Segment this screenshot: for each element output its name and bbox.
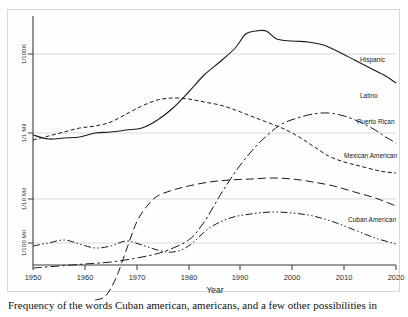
series-label-puerto-rican: Puerto Rican — [357, 118, 395, 125]
series-label-mexican-american: Mexican American — [344, 152, 397, 159]
x-axis — [33, 265, 396, 270]
x-axis-title: Year — [206, 285, 223, 295]
series-paths — [33, 30, 396, 300]
y-axis — [28, 16, 33, 265]
figure-caption: Frequency of the words Cuban american, a… — [8, 299, 404, 312]
y-tick-label-1: 1/1 Mil — [21, 123, 27, 142]
x-tick-label-2: 1970 — [129, 273, 146, 282]
x-tick-label-3: 1980 — [181, 273, 198, 282]
x-tick-label-1: 1960 — [77, 273, 94, 282]
x-tick-label-6: 2010 — [336, 273, 353, 282]
series-line-hispanic — [33, 30, 396, 139]
gridlines — [33, 54, 396, 243]
line-chart: 1/100K 1/1 Mil 1/10 Mil 1/100 Mil 1950 1… — [0, 0, 408, 317]
x-tick-label-4: 1990 — [232, 273, 249, 282]
y-tick-label-0: 1/100K — [21, 44, 27, 64]
y-tick-label-3: 1/100 Mil — [21, 230, 27, 256]
x-tick-label-0: 1950 — [25, 273, 42, 282]
series-label-hispanic: Hispanic — [360, 56, 386, 64]
figure-container: 1/100K 1/1 Mil 1/10 Mil 1/100 Mil 1950 1… — [0, 0, 408, 317]
series-line-latino — [33, 113, 396, 268]
x-tick-label-5: 2000 — [284, 273, 301, 282]
x-tick-label-7: 2020 — [388, 273, 405, 282]
series-label-latino: Latino — [360, 92, 378, 99]
series-line-cuban-american — [33, 212, 396, 252]
y-tick-labels: 1/100K 1/1 Mil 1/10 Mil 1/100 Mil — [21, 44, 27, 256]
y-tick-label-2: 1/10 Mil — [21, 188, 27, 211]
x-tick-labels: 1950 1960 1970 1980 1990 2000 2010 2020 — [25, 273, 405, 282]
series-label-cuban-american: Cuban American — [348, 216, 396, 223]
